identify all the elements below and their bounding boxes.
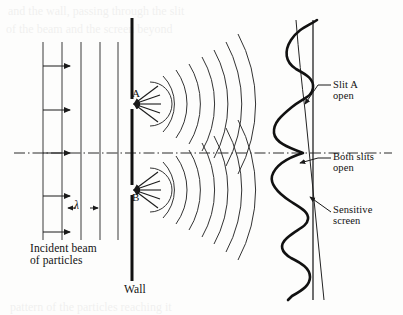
both-slits-leader: [300, 158, 331, 163]
slit-b-label: B: [132, 192, 139, 203]
both-slits-open-label: Both slits open: [333, 152, 374, 174]
incident-beam-label: Incident beam of particles: [30, 243, 97, 267]
sensitive-screen-label: Sensitive screen: [333, 205, 372, 227]
incident-wavefronts: [43, 42, 118, 240]
wavelength-label: λ: [74, 200, 79, 212]
slit-a-label: A: [132, 88, 140, 99]
slit-a-open-label: Slit A open: [333, 80, 358, 102]
incident-direction-arrows: [43, 66, 70, 232]
wall-label: Wall: [124, 284, 146, 296]
slit-b-wavefronts: [150, 120, 256, 260]
